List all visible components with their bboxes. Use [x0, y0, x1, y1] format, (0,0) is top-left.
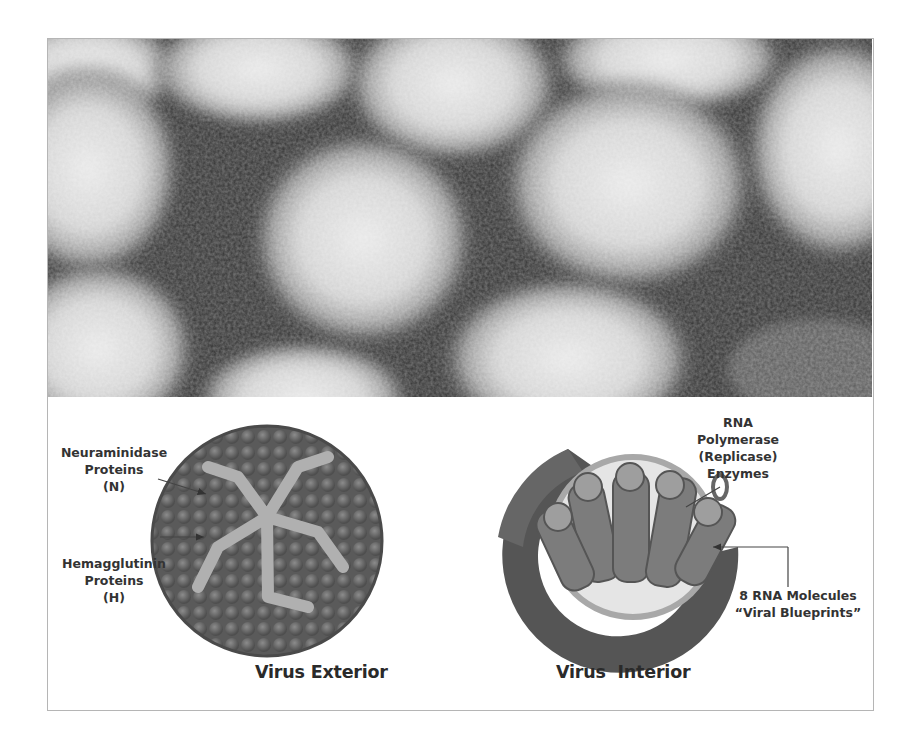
- label-line: Enzymes: [688, 465, 788, 482]
- caption-virus-exterior: Virus Exterior: [255, 662, 388, 682]
- label-line: 8 RNA Molecules: [728, 587, 868, 604]
- label-line: (N): [54, 478, 174, 495]
- caption-virus-interior: Virus Interior: [556, 662, 690, 682]
- neuraminidase-label: Neuraminidase Proteins (N): [54, 444, 174, 495]
- label-line: Proteins: [54, 461, 174, 478]
- hemagglutinin-label: Hemagglutinin Proteins (H): [54, 555, 174, 606]
- label-line: (H): [54, 589, 174, 606]
- figure-frame: Neuraminidase Proteins (N) Hemagglutinin…: [47, 38, 874, 711]
- virus-exterior-illustration: [152, 426, 382, 656]
- label-line: “Viral Blueprints”: [728, 604, 868, 621]
- label-line: Proteins: [54, 572, 174, 589]
- label-line: Hemagglutinin: [54, 555, 174, 572]
- virus-interior-illustration: [498, 449, 740, 673]
- label-line: RNA: [688, 414, 788, 431]
- polymerase-label: RNA Polymerase (Replicase) Enzymes: [688, 414, 788, 482]
- micrograph-photo: [48, 39, 872, 397]
- label-line: Neuraminidase: [54, 444, 174, 461]
- label-line: Polymerase: [688, 431, 788, 448]
- label-line: (Replicase): [688, 448, 788, 465]
- rna-molecules-label: 8 RNA Molecules “Viral Blueprints”: [728, 587, 868, 621]
